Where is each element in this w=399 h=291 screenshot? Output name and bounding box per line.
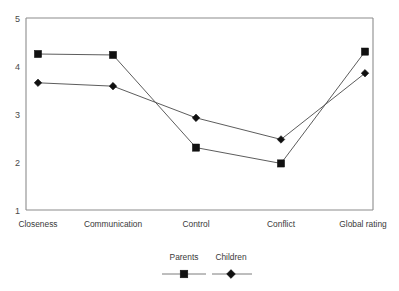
- data-point-parents-conflict: [277, 160, 284, 167]
- y-tick-label-4: 4: [15, 62, 20, 72]
- x-category-label-conflict: Conflict: [267, 219, 296, 229]
- legend-marker-square-parents: [180, 270, 188, 278]
- legend-marker-diamond-children: [227, 270, 236, 279]
- x-category-label-global-rating: Global rating: [339, 219, 387, 229]
- data-point-children-control: [192, 114, 200, 122]
- data-point-children-closeness: [34, 79, 42, 87]
- data-point-parents-global-rating: [361, 48, 368, 55]
- data-point-children-communication: [109, 82, 117, 90]
- line-chart: 5 4 3 2 1 Closeness Communication Contro…: [0, 0, 399, 291]
- y-tick-label-2: 2: [15, 158, 20, 168]
- legend-label-children: Children: [215, 252, 247, 262]
- y-tick-label-5: 5: [15, 14, 20, 24]
- data-point-parents-closeness: [34, 50, 41, 57]
- y-tick-label-3: 3: [15, 110, 20, 120]
- series-line-parents: [38, 52, 365, 164]
- series-line-children: [38, 73, 365, 139]
- x-category-label-control: Control: [183, 219, 210, 229]
- series-markers-parents: [34, 48, 368, 167]
- data-point-parents-communication: [109, 51, 116, 58]
- y-tick-label-1: 1: [15, 206, 20, 216]
- series-markers-children: [34, 69, 369, 143]
- chart-canvas: 5 4 3 2 1 Closeness Communication Contro…: [0, 0, 399, 291]
- legend-label-parents: Parents: [170, 252, 199, 262]
- x-category-label-closeness: Closeness: [18, 219, 57, 229]
- data-point-parents-control: [192, 144, 199, 151]
- x-category-label-communication: Communication: [84, 219, 143, 229]
